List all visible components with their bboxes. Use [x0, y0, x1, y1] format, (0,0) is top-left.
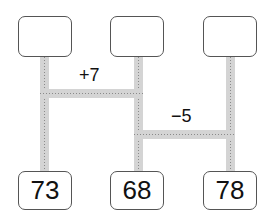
- vertical-line-2: [134, 57, 143, 172]
- top-answer-box-2[interactable]: [110, 16, 164, 57]
- bottom-value-box-1: 73: [18, 171, 72, 210]
- bottom-value-box-3: 78: [203, 171, 257, 210]
- rung-2-operation-label: −5: [171, 106, 192, 127]
- vertical-line-3: [226, 57, 235, 172]
- vertical-line-1: [40, 57, 49, 172]
- rung-2-3: [134, 130, 235, 139]
- rung-1-2: [40, 89, 143, 98]
- rung-1-operation-label: +7: [79, 65, 100, 86]
- top-answer-box-1[interactable]: [18, 16, 72, 57]
- bottom-value-box-2: 68: [110, 171, 164, 210]
- top-answer-box-3[interactable]: [203, 16, 257, 57]
